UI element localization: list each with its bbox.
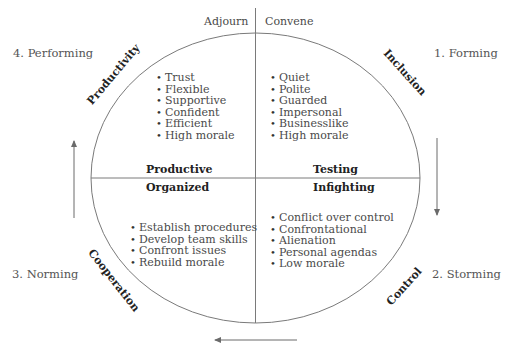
list-item: Quiet xyxy=(270,72,349,84)
stage-norming: 3. Norming xyxy=(12,269,78,281)
list-item: Low morale xyxy=(270,258,394,270)
list-testing: Quiet Polite Guarded Impersonal Business… xyxy=(270,72,349,142)
stage-performing: 4. Performing xyxy=(13,48,93,60)
list-item: Establish procedures xyxy=(130,222,257,234)
list-item: High morale xyxy=(270,130,349,142)
heading-organized: Organized xyxy=(146,182,209,193)
list-item: High morale xyxy=(156,130,235,142)
list-item: Trust xyxy=(156,72,235,84)
heading-infighting: Infighting xyxy=(313,182,375,193)
list-organized: Establish procedures Develop team skills… xyxy=(130,222,257,268)
stage-forming: 1. Forming xyxy=(434,48,498,60)
convene-label: Convene xyxy=(265,16,313,27)
heading-productive: Productive xyxy=(146,164,212,175)
adjourn-label: Adjourn xyxy=(204,16,248,27)
list-item: Conflict over control xyxy=(270,212,394,224)
stage-storming: 2. Storming xyxy=(432,269,501,281)
list-infighting: Conflict over control Confrontational Al… xyxy=(270,212,394,270)
list-productive: Trust Flexible Supportive Confident Effi… xyxy=(156,72,235,142)
heading-testing: Testing xyxy=(313,164,358,175)
list-item: Rebuild morale xyxy=(130,257,257,269)
